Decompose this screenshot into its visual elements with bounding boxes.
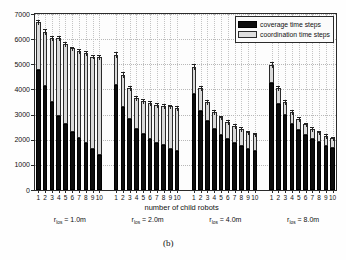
bar-segment-coverage [168, 149, 173, 190]
bar-segment-coverage [290, 124, 295, 190]
x-tick-mark [52, 190, 53, 193]
x-tick-mark [241, 190, 242, 193]
bar-stacked [283, 102, 288, 190]
error-bar-cap [141, 99, 145, 100]
error-bar-cap [84, 51, 88, 52]
bar-stacked [63, 44, 68, 190]
error-bar-cap [212, 110, 216, 111]
gridline-horizontal [35, 14, 336, 15]
bar-stacked [198, 88, 203, 190]
x-tick-label: 10 [171, 194, 183, 201]
bar-stacked [168, 106, 173, 190]
error-bar-cap [57, 36, 61, 37]
error-bar-cap [239, 127, 243, 128]
bar-segment-coverage [121, 107, 126, 190]
bar-stacked [114, 55, 119, 190]
bar-segment-coordination [97, 57, 102, 155]
bar-stacked [175, 108, 180, 190]
bar-stacked [239, 129, 244, 190]
bar-stacked [127, 88, 132, 190]
bar-stacked [148, 103, 153, 190]
y-tick-label: 1000 [0, 161, 30, 168]
x-tick-mark [170, 190, 171, 193]
bar-segment-coverage [70, 132, 75, 190]
bar-stacked [43, 32, 48, 190]
bar-segment-coverage [77, 138, 82, 190]
error-bar-cap [199, 86, 203, 87]
error-bar-cap [304, 123, 308, 124]
figure: time steps 01000200030004000500060007000… [0, 0, 346, 260]
x-tick-mark [150, 190, 151, 193]
y-tick-label: 0 [0, 187, 30, 194]
bar-stacked [225, 122, 230, 190]
bar-stacked [253, 134, 258, 190]
bar-stacked [246, 132, 251, 190]
bar-segment-coordination [43, 32, 48, 87]
bar-stacked [290, 112, 295, 190]
bar-stacked [330, 138, 335, 190]
bar-segment-coverage [310, 139, 315, 190]
bar-segment-coverage [127, 119, 132, 190]
x-tick-mark [272, 190, 273, 193]
bar-segment-coordination [50, 38, 55, 102]
bar-segment-coordination [56, 38, 61, 116]
bar-stacked [310, 129, 315, 190]
bar-segment-coverage [43, 86, 48, 190]
error-bar-cap [205, 100, 209, 101]
y-tick-label: 4000 [0, 86, 30, 93]
error-bar-cap [253, 133, 257, 134]
error-bar-cap [317, 131, 321, 132]
x-tick-mark [292, 190, 293, 193]
bar-segment-coordination [114, 55, 119, 85]
bar-segment-coordination [70, 48, 75, 132]
bar-stacked [36, 22, 41, 190]
bar-segment-coordination [121, 75, 126, 107]
y-tick-label: 5000 [0, 61, 30, 68]
bar-segment-coverage [296, 130, 301, 190]
bar-segment-coordination [148, 103, 153, 139]
bar-stacked [77, 51, 82, 190]
bar-stacked [161, 106, 166, 190]
x-tick-mark [79, 190, 80, 193]
bar-segment-coverage [141, 134, 146, 190]
legend-label-coordination: coordination time steps [260, 31, 330, 38]
bar-segment-coordination [63, 44, 68, 124]
x-tick-mark [38, 190, 39, 193]
bar-stacked [50, 38, 55, 190]
error-bar-cap [134, 96, 138, 97]
bar-stacked [97, 57, 102, 190]
x-tick-mark [248, 190, 249, 193]
legend-swatch-coverage [238, 21, 257, 28]
x-tick-mark [157, 190, 158, 193]
legend: coverage time steps coordination time st… [235, 16, 334, 43]
error-bar-cap [77, 49, 81, 50]
bar-segment-coordination [84, 53, 89, 143]
error-bar-cap [219, 116, 223, 117]
bar-segment-coverage [283, 115, 288, 190]
x-tick-mark [235, 190, 236, 193]
bar-stacked [70, 48, 75, 190]
bar-segment-coverage [84, 143, 89, 190]
error-bar-cap [233, 124, 237, 125]
x-tick-mark [93, 190, 94, 193]
error-bar-cap [50, 36, 54, 37]
bar-segment-coordination [198, 88, 203, 111]
error-bar-cap [175, 106, 179, 107]
bar-segment-coverage [114, 85, 119, 190]
bar-segment-coverage [246, 149, 251, 190]
error-bar-cap [331, 137, 335, 138]
bar-segment-coverage [148, 139, 153, 190]
legend-item-coverage: coverage time steps [238, 20, 330, 29]
x-tick-mark [194, 190, 195, 193]
error-bar-cap [91, 55, 95, 56]
x-tick-mark [333, 190, 334, 193]
x-tick-mark [306, 190, 307, 193]
bar-stacked [324, 136, 329, 190]
bar-segment-coordination [192, 67, 197, 94]
x-tick-mark [65, 190, 66, 193]
x-tick-mark [86, 190, 87, 193]
error-bar-cap [70, 47, 74, 48]
bar-segment-coverage [324, 146, 329, 190]
bar-segment-coverage [317, 142, 322, 190]
bar-segment-coverage [36, 70, 41, 190]
